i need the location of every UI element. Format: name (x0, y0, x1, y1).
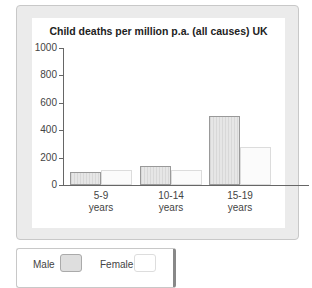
legend: Male Female (16, 248, 176, 288)
x-label-5-9: 5-9 years (71, 190, 131, 214)
x-axis (63, 185, 309, 186)
y-tick (59, 48, 64, 49)
x-label-line: years (141, 202, 201, 214)
legend-female-swatch (134, 254, 156, 272)
y-tick-label: 400 (29, 124, 57, 135)
y-tick (59, 130, 64, 131)
x-label-line: 5-9 (71, 190, 131, 202)
y-tick-label: 200 (29, 152, 57, 163)
y-tick-label: 600 (29, 97, 57, 108)
bar-male-5-9 (70, 172, 101, 185)
y-tick (59, 103, 64, 104)
x-label-line: 15-19 (210, 190, 270, 202)
legend-male-label: Male (33, 259, 55, 270)
x-label-10-14: 10-14 years (141, 190, 201, 214)
y-axis (63, 48, 64, 185)
chart-area: Child deaths per million p.a. (all cause… (32, 18, 285, 228)
bar-male-15-19 (209, 116, 240, 185)
bar-female-15-19 (240, 147, 271, 185)
y-tick-label: 0 (29, 179, 57, 190)
chart-title: Child deaths per million p.a. (all cause… (32, 25, 285, 37)
y-tick (59, 158, 64, 159)
legend-female-label: Female (100, 259, 133, 270)
bar-male-10-14 (140, 166, 171, 185)
x-label-line: years (210, 202, 270, 214)
bar-female-5-9 (101, 170, 132, 185)
y-tick (59, 185, 64, 186)
x-label-line: 10-14 (141, 190, 201, 202)
y-tick (59, 75, 64, 76)
bar-female-10-14 (171, 170, 202, 185)
chart-panel: Child deaths per million p.a. (all cause… (16, 5, 299, 240)
y-tick-label: 1000 (29, 42, 57, 53)
x-label-15-19: 15-19 years (210, 190, 270, 214)
legend-male-swatch (60, 254, 82, 272)
x-label-line: years (71, 202, 131, 214)
y-tick-label: 800 (29, 69, 57, 80)
